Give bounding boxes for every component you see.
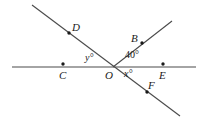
point-dot-E [161,62,164,65]
point-label-D: D [72,22,80,33]
line-DF [32,5,180,116]
lines-group [12,5,196,116]
angle-label-y-degrees: y° [85,53,93,63]
angle-label-40-degrees: 40° [125,50,139,60]
point-label-F: F [148,80,155,91]
point-dot-C [61,62,64,65]
geometry-figure: D B C O E F 40° x° y° [0,0,204,122]
point-label-E: E [159,70,166,81]
point-label-C: C [59,70,66,81]
point-label-O: O [105,70,113,81]
point-label-B: B [131,33,138,44]
point-dot-B [140,41,143,44]
angle-label-x-degrees: x° [124,69,132,79]
point-dot-D [67,31,70,34]
figure-canvas [0,0,204,122]
